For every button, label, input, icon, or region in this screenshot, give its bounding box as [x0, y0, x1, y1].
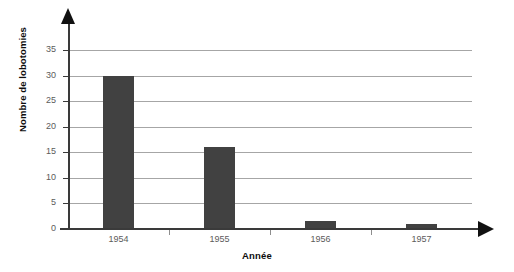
x-axis-title: Année [0, 250, 514, 261]
plot-area [68, 30, 472, 229]
gridline [68, 50, 472, 51]
bar-chart: Nombre de lobotomies Année 0510152025303… [0, 0, 514, 272]
x-axis-tick [169, 230, 170, 235]
y-axis-tick-label: 10 [32, 172, 56, 182]
y-axis-tick-label: 20 [32, 121, 56, 131]
x-axis-arrow-icon [478, 221, 494, 237]
y-axis-line [68, 22, 70, 230]
y-axis-tick-label: 25 [32, 95, 56, 105]
x-axis-tick [270, 230, 271, 235]
y-axis-tick-label: 30 [32, 70, 56, 80]
x-axis-category-label: 1954 [89, 234, 149, 244]
y-axis-title: Nombre de lobotomies [17, 10, 28, 150]
y-axis-arrow-icon [61, 8, 75, 24]
y-axis-tick-label: 5 [32, 197, 56, 207]
x-axis-category-label: 1956 [291, 234, 351, 244]
bar [204, 147, 235, 229]
x-axis-tick [371, 230, 372, 235]
bar [103, 76, 134, 229]
y-axis-tick-label: 35 [32, 44, 56, 54]
x-axis-category-label: 1955 [190, 234, 250, 244]
y-axis-tick-label: 0 [32, 223, 56, 233]
y-axis-tick-label: 15 [32, 146, 56, 156]
x-axis-category-label: 1957 [392, 234, 452, 244]
